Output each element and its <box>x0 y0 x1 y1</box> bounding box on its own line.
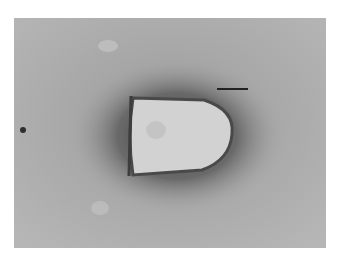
light-patch <box>91 201 109 215</box>
micrograph-svg <box>14 18 326 248</box>
scale-bar <box>217 88 248 90</box>
micrograph-image <box>14 18 326 248</box>
artifact-dot <box>20 127 26 133</box>
light-patch <box>98 40 118 52</box>
particle-base <box>129 96 131 176</box>
particle-interior <box>146 121 166 139</box>
bullet-particle <box>130 98 232 175</box>
